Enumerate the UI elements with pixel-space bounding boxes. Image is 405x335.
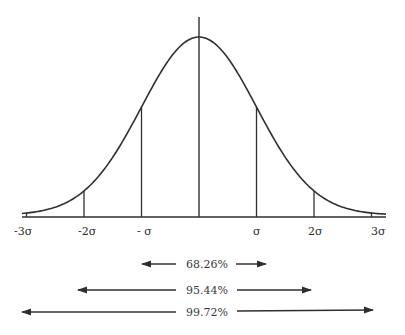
range-99-arrow: 99.72%	[22, 306, 373, 319]
tick-label-minus-1-sigma: - σ	[137, 225, 152, 238]
tick-label-minus-3-sigma: -3σ	[14, 225, 33, 238]
range-68-arrow: 68.26%	[142, 258, 266, 271]
tick-label-minus-2-sigma: -2σ	[78, 225, 97, 238]
tick-label-plus-3-sigma: 3σ	[371, 225, 386, 238]
axis-tick-labels: -3σ -2σ - σ σ 2σ 3σ	[14, 225, 386, 238]
bell-curve	[22, 37, 386, 214]
range-68-label: 68.26%	[186, 258, 228, 271]
range-99-label: 99.72%	[186, 306, 228, 319]
tick-label-plus-1-sigma: σ	[253, 225, 261, 238]
normal-distribution-diagram: -3σ -2σ - σ σ 2σ 3σ 68.26% 95.44% 99.72%	[0, 0, 405, 335]
tick-label-plus-2-sigma: 2σ	[308, 225, 323, 238]
range-95-arrow: 95.44%	[78, 284, 311, 297]
range-95-label: 95.44%	[186, 284, 228, 297]
